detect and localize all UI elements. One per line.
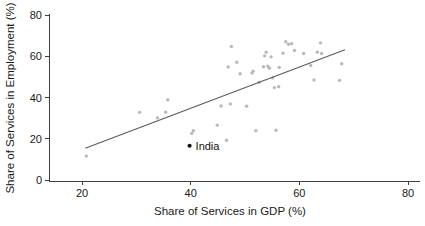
- data-point: [340, 62, 343, 65]
- data-point: [274, 129, 277, 132]
- data-point: [278, 66, 281, 69]
- data-point: [293, 49, 296, 52]
- y-axis-tick-label: 60: [30, 50, 42, 62]
- data-point: [277, 85, 280, 88]
- data-point: [319, 41, 322, 44]
- data-point: [166, 98, 169, 101]
- data-point-label-india: India: [196, 140, 221, 152]
- data-point: [263, 54, 266, 57]
- data-point: [284, 40, 287, 43]
- x-axis-title: Share of Services in GDP (%): [154, 205, 306, 217]
- data-point: [156, 116, 159, 119]
- data-point: [226, 65, 229, 68]
- plot-area: 020406080 20406080 India Share of Servic…: [0, 0, 425, 226]
- data-point: [309, 64, 312, 67]
- data-point: [229, 102, 232, 105]
- y-axis-tick-label: 40: [30, 92, 42, 104]
- scatter-chart: 020406080 20406080 India Share of Servic…: [0, 0, 425, 226]
- data-point: [230, 45, 233, 48]
- regression-line-group: [85, 50, 345, 149]
- data-point: [85, 154, 88, 157]
- data-point: [254, 129, 257, 132]
- x-axis-tick-label: 80: [402, 187, 414, 199]
- x-axis: 20406080: [49, 181, 420, 199]
- annotation-group: India: [187, 140, 220, 152]
- data-point: [164, 110, 167, 113]
- highlighted-data-point-india: [187, 144, 191, 148]
- data-point: [264, 50, 267, 53]
- x-axis-tick-label: 20: [76, 187, 88, 199]
- data-point: [273, 86, 276, 89]
- x-axis-tick-label: 40: [185, 187, 197, 199]
- y-axis-tick-label: 0: [36, 174, 42, 186]
- data-point: [287, 43, 290, 46]
- data-point: [316, 50, 319, 53]
- regression-line: [85, 50, 345, 149]
- x-axis-tick-label: 60: [293, 187, 305, 199]
- data-point: [219, 104, 222, 107]
- data-point: [312, 78, 315, 81]
- y-axis: 020406080: [30, 9, 49, 186]
- data-point: [238, 72, 241, 75]
- data-point: [216, 123, 219, 126]
- data-point: [269, 55, 272, 58]
- data-point: [235, 61, 238, 64]
- data-point: [338, 79, 341, 82]
- data-point: [192, 129, 195, 132]
- data-point: [251, 69, 254, 72]
- data-point: [302, 52, 305, 55]
- data-point: [138, 111, 141, 114]
- y-axis-tick-label: 20: [30, 133, 42, 145]
- data-point: [262, 65, 265, 68]
- data-point: [290, 42, 293, 45]
- data-point: [320, 52, 323, 55]
- data-point: [245, 104, 248, 107]
- data-point: [225, 138, 228, 141]
- y-axis-title: Share of Services in Employment (%): [4, 2, 16, 193]
- data-point: [268, 67, 271, 70]
- y-axis-tick-label: 80: [30, 9, 42, 21]
- data-point: [281, 51, 284, 54]
